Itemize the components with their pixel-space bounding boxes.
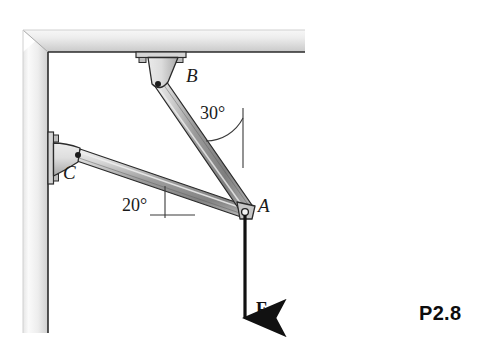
wall-band xyxy=(23,30,48,333)
angle-label-20: 20° xyxy=(122,196,147,214)
bracket-C-mount-plate xyxy=(48,132,54,184)
joint-C-pin xyxy=(75,152,81,158)
ceiling-bracket-B xyxy=(136,52,186,88)
figure-p2-8: A B C 30° 20° F P2.8 xyxy=(0,0,495,354)
joint-label-B: B xyxy=(186,66,198,85)
angle-label-30: 30° xyxy=(200,104,225,122)
joint-A-pin-hole xyxy=(242,209,249,216)
bracket-C-bolt-top xyxy=(54,135,59,142)
bracket-B-mount-plate xyxy=(136,52,186,58)
bracket-B-bolt-left xyxy=(139,58,146,63)
ceiling-band xyxy=(23,30,305,52)
force-label-F: F xyxy=(256,300,267,318)
problem-number-label: P2.8 xyxy=(419,303,461,323)
joint-label-C: C xyxy=(63,163,76,182)
joint-B-pin xyxy=(155,81,161,87)
joint-label-A: A xyxy=(258,196,270,215)
bracket-B-gusset xyxy=(148,58,178,88)
